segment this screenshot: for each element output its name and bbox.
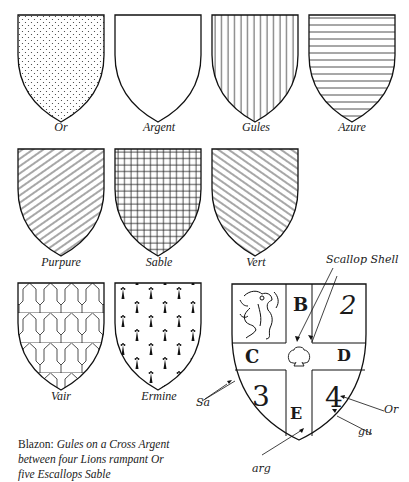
- annotation-or: Or: [384, 403, 398, 416]
- shield-gules: [212, 15, 298, 122]
- label-vert: Vert: [211, 255, 301, 270]
- blazon-prefix: Blazon:: [18, 438, 54, 450]
- label-or: Or: [16, 120, 106, 135]
- shield-vair: [18, 283, 104, 390]
- cell-3: 3: [252, 380, 270, 413]
- shield-azure: [309, 15, 395, 122]
- annotation-sa: Sa: [196, 396, 210, 409]
- label-sable: Sable: [114, 255, 204, 270]
- label-argent: Argent: [114, 120, 204, 135]
- blazon-line-3: five Escallops Sable: [18, 468, 111, 480]
- shield-vert: [212, 149, 298, 256]
- cell-c: C: [245, 346, 259, 367]
- blazon-line-1: Gules on a Cross Argent: [57, 438, 170, 450]
- cell-4: 4: [325, 381, 343, 414]
- shield-or: [18, 15, 104, 122]
- label-ermine: Ermine: [114, 389, 204, 404]
- annotation-scallop-shell: Scallop Shell: [326, 253, 399, 266]
- blazon-text: Blazon: Gules on a Cross Argent between …: [18, 437, 218, 482]
- cell-b: B: [293, 294, 308, 315]
- label-vair: Vair: [16, 389, 106, 404]
- shield-sable: [115, 149, 201, 256]
- blazon-line-2: between four Lions rampant Or: [18, 453, 164, 465]
- annotation-arg: arg: [252, 462, 271, 475]
- label-gules: Gules: [211, 120, 301, 135]
- label-purpure: Purpure: [16, 255, 106, 270]
- cell-e: E: [290, 404, 302, 423]
- shield-purpure: [18, 149, 104, 256]
- cell-d: D: [337, 346, 351, 365]
- shield-ermine: [115, 283, 201, 390]
- shield-argent: [115, 15, 201, 122]
- label-azure: Azure: [307, 120, 397, 135]
- annotation-gu: gu: [358, 425, 372, 438]
- cell-2: 2: [340, 290, 357, 320]
